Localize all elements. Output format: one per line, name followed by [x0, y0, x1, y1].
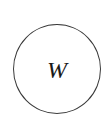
node-label: W [47, 58, 67, 82]
node-circle-w: W [13, 24, 101, 114]
diagram-canvas: W [0, 0, 105, 120]
